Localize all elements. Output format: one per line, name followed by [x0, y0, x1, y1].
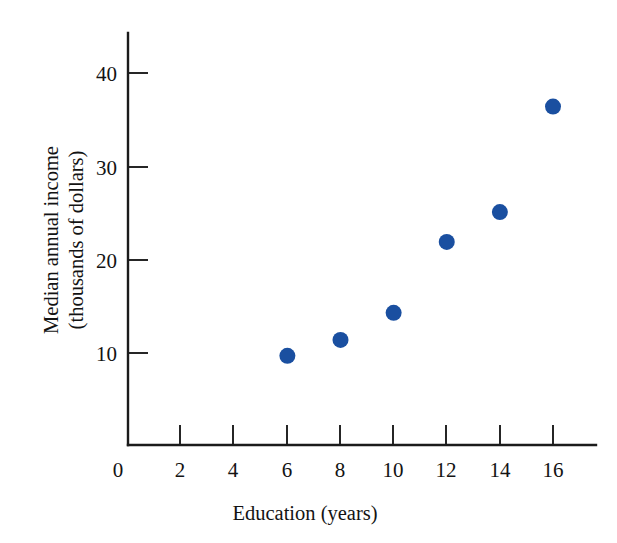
data-point [439, 234, 455, 250]
scatter-plot-figure: 40 30 20 10 0 2 4 6 8 10 12 14 16 [0, 0, 617, 543]
x-axis-ticks [180, 425, 553, 445]
data-point [333, 332, 349, 348]
data-point-group [279, 99, 561, 364]
y-tick-label-20: 20 [96, 249, 117, 273]
data-point [279, 348, 295, 364]
data-point [386, 305, 402, 321]
y-tick-label-10: 10 [96, 342, 117, 366]
data-point [492, 204, 508, 220]
y-axis-ticks [128, 73, 148, 353]
y-tick-label-40: 40 [96, 62, 117, 86]
y-axis-title-line2: (thousands of dollars) [65, 151, 88, 330]
x-axis-title: Education (years) [232, 502, 377, 525]
y-tick-label-30: 30 [96, 156, 117, 180]
x-tick-label-0: 0 [113, 458, 124, 482]
data-point [545, 99, 561, 115]
x-tick-label-16: 16 [543, 458, 564, 482]
chart-canvas: 40 30 20 10 0 2 4 6 8 10 12 14 16 [0, 0, 617, 543]
x-tick-label-4: 4 [228, 458, 239, 482]
y-axis-tick-labels: 40 30 20 10 [96, 62, 117, 366]
x-tick-label-10: 10 [383, 458, 404, 482]
x-axis-tick-labels: 0 2 4 6 8 10 12 14 16 [113, 458, 564, 482]
x-tick-label-14: 14 [490, 458, 512, 482]
x-tick-label-6: 6 [282, 458, 293, 482]
y-axis-title-line1: Median annual income [40, 146, 62, 334]
x-tick-label-2: 2 [175, 458, 186, 482]
x-tick-label-8: 8 [335, 458, 346, 482]
x-tick-label-12: 12 [436, 458, 457, 482]
